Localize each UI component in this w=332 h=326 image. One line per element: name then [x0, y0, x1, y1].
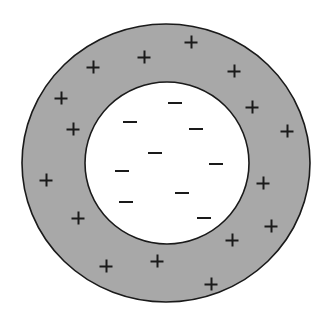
- negative-charge-icon: [115, 170, 129, 172]
- negative-charge-icon: [175, 192, 189, 194]
- negative-charge-icon: [209, 163, 223, 165]
- negative-charges-group: [0, 0, 332, 326]
- negative-charge-icon: [148, 152, 162, 154]
- negative-charge-icon: [123, 121, 137, 123]
- negative-charge-icon: [168, 102, 182, 104]
- negative-charge-icon: [119, 201, 133, 203]
- negative-charge-icon: [197, 217, 211, 219]
- negative-charge-icon: [189, 128, 203, 130]
